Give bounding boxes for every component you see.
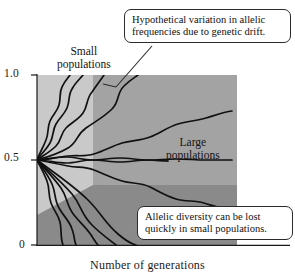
callout-allelic-diversity-lost: Allelic diversity can be lost quickly in… — [137, 206, 293, 240]
x-axis-title: Number of generations — [0, 258, 295, 273]
genetic-drift-figure: 1.0 0.5 0 Number of generations Small po… — [0, 0, 295, 278]
annotation-small-populations-line1: Small — [57, 45, 111, 58]
annotation-large-populations-line2: populations — [166, 149, 220, 162]
callout-hypothetical-variation: Hypothetical variation in allelic freque… — [124, 9, 291, 43]
annotation-small-populations: Small populations — [57, 45, 111, 70]
callout-allelic-diversity-lost-line2: quickly in small populations. — [145, 223, 285, 235]
callout-hypothetical-variation-line1: Hypothetical variation in allelic — [132, 14, 283, 26]
callout-allelic-diversity-lost-line1: Allelic diversity can be lost — [145, 211, 285, 223]
y-axis-tick-label-0-5: 0.5 — [4, 151, 19, 163]
y-axis-tick-label-0: 0 — [19, 238, 25, 250]
annotation-large-populations-line1: Large — [166, 136, 220, 149]
annotation-small-populations-line2: populations — [57, 58, 111, 71]
callout-hypothetical-variation-line2: frequencies due to genetic drift. — [132, 26, 283, 38]
y-axis-tick-label-1: 1.0 — [4, 67, 19, 79]
annotation-large-populations: Large populations — [166, 136, 220, 161]
